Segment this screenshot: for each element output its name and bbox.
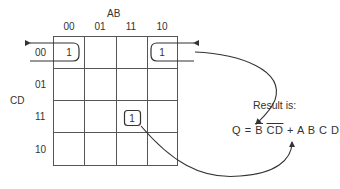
cell-00-10: 1 (155, 47, 169, 58)
eq-term2-a: A (297, 124, 304, 136)
cell-11-11: 1 (125, 113, 139, 124)
result-label: Result is: (253, 99, 296, 111)
eq-term2-d: D (331, 124, 339, 136)
cell-00-00: 1 (62, 47, 76, 58)
arrow-to-term1 (195, 52, 276, 124)
eq-term1-b: B (255, 124, 263, 136)
result-equation: Q = B CD + A B C D (232, 124, 340, 136)
eq-term1-c: C (267, 124, 275, 136)
eq-term2-b: B (308, 124, 316, 136)
eq-term1-d: D (275, 124, 283, 136)
eq-term2-c: C (319, 124, 327, 136)
eq-equals: = (245, 124, 252, 136)
eq-lhs: Q (232, 124, 241, 136)
eq-plus: + (287, 124, 294, 136)
